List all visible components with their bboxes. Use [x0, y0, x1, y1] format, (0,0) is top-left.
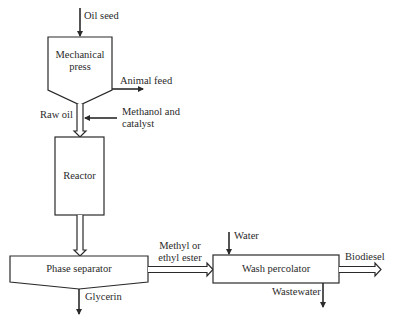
ester-label: Methyl or ethyl ester — [152, 240, 208, 264]
water-label: Water — [234, 230, 259, 242]
mechanical-press-label-line1: Mechanical — [48, 49, 112, 61]
biodiesel-pipe — [339, 263, 381, 276]
mechanical-press-label: Mechanical press — [48, 49, 112, 73]
oil-seed-label: Oil seed — [84, 10, 119, 22]
ester-label-line2: ethyl ester — [152, 252, 208, 264]
methanol-label-line1: Methanol and — [122, 106, 180, 118]
methanol-catalyst-label: Methanol and catalyst — [122, 106, 180, 130]
ester-label-line1: Methyl or — [152, 240, 208, 252]
glycerin-label: Glycerin — [85, 291, 122, 303]
phase-separator-label: Phase separator — [10, 263, 148, 275]
reactor-label: Reactor — [55, 170, 104, 182]
animal-feed-label: Animal feed — [120, 75, 172, 87]
wash-percolator-label: Wash percolator — [213, 263, 339, 275]
raw-oil-label: Raw oil — [40, 109, 73, 121]
mechanical-press-label-line2: press — [48, 61, 112, 73]
raw-oil-pipe — [74, 104, 86, 137]
methanol-label-line2: catalyst — [122, 118, 180, 130]
wastewater-label: Wastewater — [272, 286, 321, 298]
ester-pipe — [148, 263, 213, 276]
reactor-outlet-pipe — [74, 215, 86, 256]
biodiesel-label: Biodiesel — [345, 251, 385, 263]
